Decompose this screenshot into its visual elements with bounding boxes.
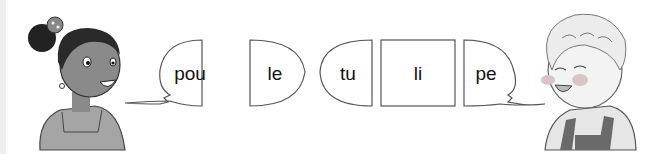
girl-illustration [28,17,125,150]
illustration [0,0,646,154]
syllable-pe: pe [475,63,496,85]
syllable-le: le [268,63,283,85]
syllable-tu: tu [340,63,356,85]
syllable-li: li [414,63,422,85]
boy-illustration [541,14,636,150]
syllable-pou: pou [174,63,206,85]
